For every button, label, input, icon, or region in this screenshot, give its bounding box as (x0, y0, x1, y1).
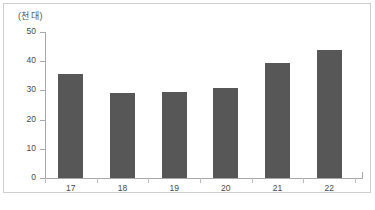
y-axis-tick-label: 0 (6, 173, 36, 182)
x-axis-tick-mark (355, 178, 356, 183)
x-axis-end-tick (362, 172, 363, 179)
y-axis-tick-label: 50 (6, 27, 36, 36)
y-axis-tick-label-wrap: 10 (0, 144, 36, 154)
y-axis-tick-label-wrap: 40 (0, 56, 36, 66)
y-axis-tick-label-wrap: 0 (0, 173, 36, 183)
bar (317, 50, 342, 178)
y-axis-tick-label-wrap: 50 (0, 27, 36, 37)
y-axis-unit-label: (천 대) (18, 9, 43, 22)
y-axis-tick-label-wrap: 20 (0, 115, 36, 125)
x-axis-tick-label: 21 (252, 184, 304, 193)
x-axis-tick-label: 17 (45, 184, 97, 193)
x-axis-tick-mark (303, 178, 304, 183)
plot-area (45, 32, 355, 178)
x-axis-tick-mark (45, 178, 46, 183)
x-axis-tick-label: 19 (148, 184, 200, 193)
y-axis-tick-label: 30 (6, 85, 36, 94)
chart-figure: (천 대) 01020304050 171819202122 (0, 0, 375, 210)
bar (58, 74, 83, 178)
bar (265, 63, 290, 178)
bar (213, 88, 238, 178)
y-axis-tick-label-wrap: 30 (0, 85, 36, 95)
y-axis-tick-label: 40 (6, 56, 36, 65)
x-axis-tick-label: 20 (200, 184, 252, 193)
x-axis-tick-mark (148, 178, 149, 183)
x-axis-tick-label: 22 (303, 184, 355, 193)
x-axis-tick-mark (252, 178, 253, 183)
y-axis-tick-label: 10 (6, 144, 36, 153)
y-axis-tick-label: 20 (6, 115, 36, 124)
x-axis-tick-mark (97, 178, 98, 183)
bar (110, 93, 135, 178)
x-axis-tick-mark (200, 178, 201, 183)
bar (162, 92, 187, 178)
x-axis-tick-label: 18 (97, 184, 149, 193)
x-axis-line (45, 178, 363, 179)
